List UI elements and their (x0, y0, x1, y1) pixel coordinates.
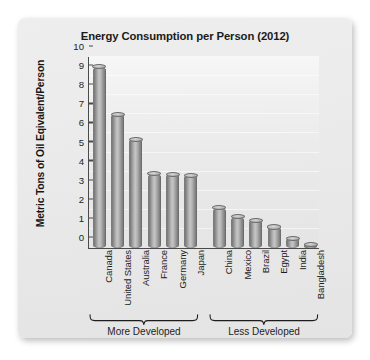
x-axis-label: Brazil (260, 244, 271, 273)
x-axis-label-text: Canada (103, 244, 114, 283)
bar-cap (212, 205, 226, 210)
bar (93, 67, 106, 248)
y-axis-tick-label: 0 (79, 232, 89, 243)
group-brace-label: Less Developed (209, 326, 319, 337)
x-axis-label: Japan (195, 244, 206, 275)
bar (129, 139, 142, 248)
x-axis-label: Germany (177, 244, 188, 288)
group-brace-label: More Developed (89, 326, 199, 337)
bar-cap (147, 171, 161, 176)
bar (184, 175, 197, 248)
x-axis-label-text: China (223, 244, 234, 274)
x-axis-label: Australia (140, 244, 151, 286)
bar (148, 174, 161, 248)
bar-cap (166, 172, 180, 177)
x-axis-label-text: Mexico (242, 244, 253, 280)
bar-cap (286, 236, 300, 241)
x-axis-label-text: Bangladesh (315, 244, 326, 299)
y-axis-tick-label: 2 (79, 193, 89, 204)
y-axis-tick-label: 1 (79, 212, 89, 223)
y-axis-tick-label: 3 (79, 174, 89, 185)
bar-cap (231, 214, 245, 219)
bar-cap (267, 224, 281, 229)
bar (166, 174, 179, 248)
y-axis-tick-label: 10 (73, 41, 89, 52)
bar-cap (92, 64, 106, 69)
y-axis-tick-label: 5 (79, 136, 89, 147)
x-axis-label-text: Egypt (278, 244, 289, 274)
y-axis-tick-label: 6 (79, 117, 89, 128)
x-axis-label: India (297, 244, 308, 270)
group-brace: More Developed (89, 314, 199, 325)
bar-cap (111, 112, 125, 117)
y-axis-tick-label: 4 (79, 155, 89, 166)
y-axis-title: Metric Tons of Oil Eqivalent/Person (35, 44, 46, 244)
x-axis-label: United States (122, 244, 133, 306)
y-axis-tick-label: 9 (79, 60, 89, 71)
x-axis-label-text: Japan (195, 244, 206, 275)
x-axis-label: France (158, 244, 169, 279)
x-axis-label-text: Australia (140, 244, 151, 286)
bar-cap (184, 173, 198, 178)
y-axis-tick-label: 7 (79, 98, 89, 109)
x-axis-label: China (223, 244, 234, 274)
x-axis-label-text: India (297, 244, 308, 270)
bar (213, 208, 226, 248)
x-axis-label-text: Germany (177, 244, 188, 288)
y-axis-tick-label: 8 (79, 79, 89, 90)
bar (111, 114, 124, 248)
chart-title: Energy Consumption per Person (2012) (18, 30, 352, 42)
gridline (89, 75, 319, 76)
bar-cap (129, 137, 143, 142)
bar-cap (249, 218, 263, 223)
x-axis-label: Mexico (242, 244, 253, 280)
chart-card: Energy Consumption per Person (2012) Met… (18, 18, 352, 338)
x-axis-label: Canada (103, 244, 114, 283)
plot-area: 109876543210 CanadaUnited StatesAustrali… (88, 57, 319, 249)
group-brace: Less Developed (209, 314, 319, 325)
x-axis-label-text: United States (122, 244, 133, 306)
gridline (89, 56, 319, 57)
x-axis-label-text: Brazil (260, 244, 271, 273)
x-axis-label: Egypt (278, 244, 289, 274)
x-axis-label: Bangladesh (315, 244, 326, 299)
x-axis-label-text: France (158, 244, 169, 279)
gridline (89, 94, 319, 95)
